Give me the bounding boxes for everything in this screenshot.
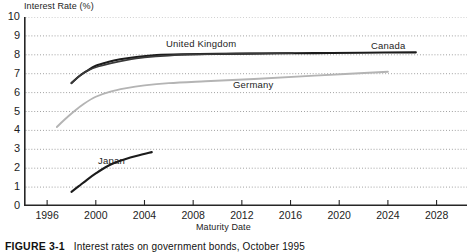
x-tick-2000: 2000 xyxy=(76,210,116,221)
y-tick-10: 10 xyxy=(0,11,20,22)
x-tick-2020: 2020 xyxy=(319,210,359,221)
x-tick-2028: 2028 xyxy=(417,210,457,221)
x-axis-ticks xyxy=(47,200,436,205)
series-label-canada: Canada xyxy=(371,40,405,51)
x-tick-2008: 2008 xyxy=(173,210,213,221)
y-tick-0: 0 xyxy=(0,200,20,211)
x-tick-1996: 1996 xyxy=(27,210,67,221)
series-label-united-kingdom: United Kingdom xyxy=(166,38,236,49)
series-line-germany xyxy=(57,72,388,127)
y-tick-1: 1 xyxy=(0,181,20,192)
y-tick-3: 3 xyxy=(0,143,20,154)
y-axis-title: Interest Rate (%) xyxy=(24,1,94,11)
y-tick-5: 5 xyxy=(0,106,20,117)
x-tick-2016: 2016 xyxy=(271,210,311,221)
series-lines xyxy=(57,52,416,191)
x-tick-2004: 2004 xyxy=(124,210,164,221)
x-tick-2012: 2012 xyxy=(222,210,262,221)
y-tick-7: 7 xyxy=(0,68,20,79)
y-tick-4: 4 xyxy=(0,124,20,135)
figure-number: FIGURE 3-1 xyxy=(5,240,65,252)
series-label-japan: Japan xyxy=(98,155,125,166)
x-axis-title: Maturity Date xyxy=(196,222,251,232)
y-tick-6: 6 xyxy=(0,87,20,98)
x-tick-2024: 2024 xyxy=(368,210,408,221)
series-label-germany: Germany xyxy=(233,79,273,90)
figure-caption-text: Interest rates on government bonds, Octo… xyxy=(74,241,305,252)
y-tick-9: 9 xyxy=(0,30,20,41)
y-tick-8: 8 xyxy=(0,49,20,60)
figure-caption: FIGURE 3-1Interest rates on government b… xyxy=(5,240,473,252)
y-tick-2: 2 xyxy=(0,162,20,173)
